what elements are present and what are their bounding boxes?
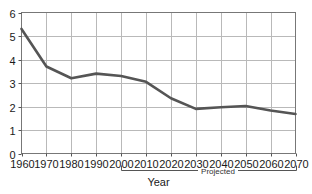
y-axis-tick-label: 2: [9, 102, 15, 114]
x-axis-tick-label: 2050: [234, 158, 258, 170]
y-axis-tick-label: 4: [9, 55, 15, 67]
x-axis-tick-labels: 1960197019801990200020102020203020402050…: [10, 158, 308, 170]
x-axis-tick-label: 2020: [159, 158, 183, 170]
x-axis-title: Year: [147, 176, 170, 188]
x-axis-tick-label: 2060: [259, 158, 283, 170]
x-axis-tick-label: 1960: [10, 158, 34, 170]
x-axis-tick-label: 1970: [34, 158, 58, 170]
y-axis-tick-label: 5: [9, 31, 15, 43]
line-chart: 0123456 19601970198019902000201020202030…: [0, 0, 312, 194]
x-axis-tick-label: 1980: [59, 158, 83, 170]
y-axis-tick-label: 3: [9, 78, 15, 90]
chart-container: 0123456 19601970198019902000201020202030…: [0, 0, 312, 194]
x-axis-tick-label: 2010: [134, 158, 158, 170]
projected-label: Projected: [201, 167, 235, 176]
y-axis-tick-label: 6: [9, 8, 15, 20]
x-axis-tick-label: 1990: [84, 158, 108, 170]
y-axis-tick-label: 1: [9, 125, 15, 137]
